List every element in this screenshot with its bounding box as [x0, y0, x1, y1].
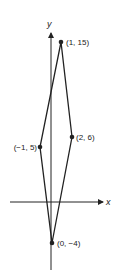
x-axis-label: x [105, 197, 111, 207]
coordinate-diagram: y x (1, 15) (2, 6) (0, −4) (−1, 5) [0, 0, 117, 278]
point-label-neg1-5: (−1, 5) [14, 143, 38, 152]
y-axis-label: y [46, 19, 52, 29]
vertex-point-neg1-5 [38, 145, 43, 150]
quadrilateral-shape [40, 42, 72, 243]
vertex-point-2-6 [70, 135, 75, 140]
point-label-2-6: (2, 6) [76, 133, 95, 142]
point-label-0-neg4: (0, −4) [57, 239, 81, 248]
vertex-point-0-neg4 [50, 241, 55, 246]
point-label-1-15: (1, 15) [66, 38, 89, 47]
vertex-point-1-15 [59, 40, 64, 45]
